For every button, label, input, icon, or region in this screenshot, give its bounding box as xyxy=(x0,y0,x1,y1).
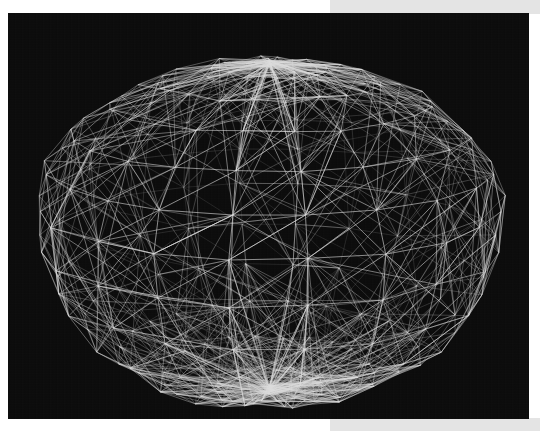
render-viewport xyxy=(8,13,529,419)
scan-band-bottom-right xyxy=(330,418,540,431)
page-root xyxy=(0,0,540,431)
wireframe-mesh xyxy=(8,13,529,419)
page-margin-bottom-left xyxy=(0,419,330,431)
page-margin-top-left xyxy=(0,0,330,14)
scan-band-top-right xyxy=(330,0,540,14)
